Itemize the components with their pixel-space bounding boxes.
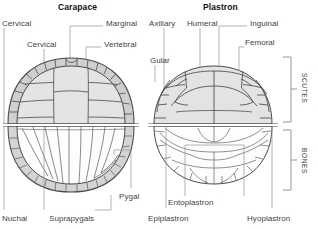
cervical-bone-label: Cervical	[27, 40, 56, 49]
hyoplastron-label: Hyoplastron	[247, 214, 290, 223]
suprapygals-label: Suprapygals	[49, 214, 94, 223]
plastron-title: Plastron	[203, 2, 238, 12]
bones-bracket-label: BONES	[301, 148, 308, 174]
plastron-scutes-drawing	[148, 66, 278, 124]
carapace-scutes-drawing	[3, 58, 139, 124]
marginal-label: Marginal	[106, 19, 137, 28]
pygal-label: Pygal	[119, 192, 139, 201]
femoral-label: Femoral	[245, 38, 275, 47]
plastron-bones-drawing	[148, 126, 278, 184]
cervical-scute-label: Cervical	[2, 19, 31, 28]
anatomy-drawing	[0, 0, 318, 230]
scutes-bracket-label: SCUTES	[301, 73, 308, 103]
carapace-bones-drawing	[3, 126, 139, 192]
category-brackets	[283, 57, 297, 190]
epiplastron-label: Epiplastron	[148, 214, 189, 223]
nuchal-label: Nuchal	[2, 214, 27, 223]
vertebral-label: Vertebral	[104, 40, 136, 49]
gular-label: Gular	[150, 56, 170, 65]
turtle-shell-anatomy-figure: Carapace Plastron Cervical Cervical Marg…	[0, 0, 318, 230]
axillary-label: Axillary	[149, 19, 175, 28]
humeral-label: Humeral	[187, 19, 218, 28]
carapace-title: Carapace	[58, 2, 97, 12]
entoplastron-label: Entoplastron	[168, 198, 214, 207]
inguinal-label: Inguinal	[250, 19, 278, 28]
